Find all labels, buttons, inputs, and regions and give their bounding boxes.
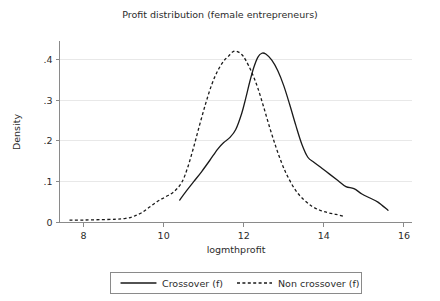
y-axis-title: Density [11,114,22,150]
chart-figure: Profit distribution (female entrepreneur… [0,0,440,301]
gridlines [60,59,413,181]
legend-label-non-crossover: Non crossover (f) [278,278,360,289]
series-lines [70,51,388,220]
series-line-crossover-f [180,53,388,210]
y-axis-ticks: 0.1.2.3.4 [43,54,59,228]
y-tick-label: .2 [43,135,52,146]
x-tick-label: 8 [81,230,87,241]
x-tick-label: 16 [398,230,410,241]
y-tick-label: .1 [43,176,52,187]
y-tick-label: 0 [46,217,52,228]
chart-title: Profit distribution (female entrepreneur… [122,9,318,20]
profit-distribution-chart: Profit distribution (female entrepreneur… [0,0,440,301]
legend-label-crossover: Crossover (f) [162,278,223,289]
y-tick-label: .3 [43,95,52,106]
x-tick-label: 12 [238,230,250,241]
x-tick-label: 14 [318,230,330,241]
x-tick-label: 10 [158,230,170,241]
series-line-non-crossover-f [70,51,344,220]
x-axis-ticks: 810121416 [81,223,411,241]
y-tick-label: .4 [43,54,52,65]
x-axis-title: logmthprofit [207,244,266,255]
chart-legend: Crossover (f) Non crossover (f) [111,273,362,294]
